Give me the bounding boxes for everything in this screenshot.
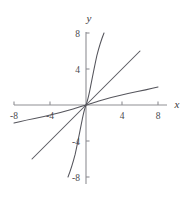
y-tick-label--8: -8 bbox=[72, 173, 80, 183]
y-tick-label--4: -4 bbox=[72, 137, 80, 147]
x-tick-label-4: 4 bbox=[120, 111, 125, 121]
y-axis-label: y bbox=[86, 12, 92, 24]
graph-figure: -8 -4 4 8 8 4 -4 -8 x y bbox=[0, 0, 193, 197]
y-tick-label-4: 4 bbox=[75, 65, 80, 75]
x-tick-label--8: -8 bbox=[10, 111, 18, 121]
x-tick-label-8: 8 bbox=[156, 111, 161, 121]
axes-group bbox=[14, 32, 167, 184]
axis-names-group: x y bbox=[86, 12, 180, 110]
y-tick-label-8: 8 bbox=[75, 29, 80, 39]
x-axis-label: x bbox=[174, 98, 180, 110]
cartesian-plot: -8 -4 4 8 8 4 -4 -8 x y bbox=[0, 0, 193, 197]
x-tick-label--4: -4 bbox=[46, 111, 54, 121]
